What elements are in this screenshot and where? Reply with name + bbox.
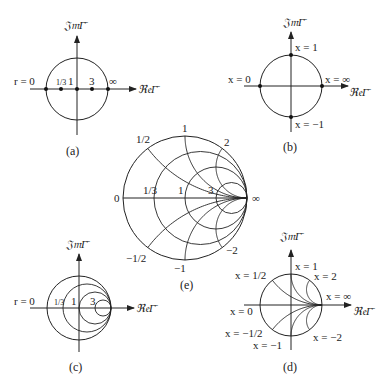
x-half-label: x = 1/2 [235, 269, 266, 281]
caption-a: (a) [66, 144, 79, 158]
x-neg1-label: x = −1 [295, 118, 324, 130]
caption-e: (e) [180, 278, 193, 292]
point-x0 [258, 84, 262, 88]
point-r3 [90, 87, 94, 91]
r-inf-label: ∞ [109, 75, 117, 87]
r1-label: 1 [68, 75, 74, 87]
x-neg-one-label: x = −1 [253, 339, 282, 351]
real-axis-label: ℜ𝔢Γ̄ [136, 302, 158, 314]
r3-label: 3 [90, 295, 96, 307]
r0-label: r = 0 [14, 75, 35, 87]
inf-label: ∞ [252, 192, 260, 204]
point-x-inf [320, 84, 324, 88]
point-r0 [44, 87, 48, 91]
r-third-label: 1/3 [54, 298, 64, 307]
x-neg-half-label: x = −1/2 [225, 327, 262, 339]
x-neg-one-label: −1 [174, 262, 186, 274]
x-pos-two-label: 2 [224, 136, 230, 148]
x-inf-label: x = ∞ [325, 73, 350, 85]
x-neg-half-label: −1/2 [126, 252, 146, 264]
x-pos-half-label: 1/2 [136, 133, 150, 145]
r-third-label: 1/3 [143, 184, 158, 196]
r3-label: 3 [208, 184, 214, 196]
x0-label: x = 0 [228, 73, 251, 85]
r0-label: 0 [114, 192, 120, 204]
real-axis-label: ℜ𝔢Γ̄ [353, 305, 375, 317]
r1-label: 1 [71, 295, 77, 307]
imag-axis-label: 𝔍𝔪Γ̄ [279, 230, 304, 242]
caption-c: (c) [69, 360, 82, 374]
x-pos-one-label: 1 [182, 122, 188, 134]
caption-d: (d) [283, 360, 297, 374]
point-x1 [289, 53, 293, 57]
x-neg-two-label: −2 [226, 244, 238, 256]
smith-chart-figure: r = 0 1/3 1 3 ∞ 𝔍𝔪Γ̄ ℜ𝔢Γ̄ (a) x = 1 x = … [0, 0, 391, 388]
x1-label: x = 1 [295, 41, 318, 53]
point-x-neg1 [289, 115, 293, 119]
x-two-label: x = 2 [314, 270, 337, 282]
imag-axis-label: 𝔍𝔪Γ̄ [282, 16, 307, 28]
x-zero-label: x = 0 [230, 305, 253, 317]
panel-e: 0 1/3 1 3 ∞ 1/2 1 2 −1/2 −1 −2 (e) [114, 122, 260, 292]
x-neg-two-label: x = −2 [313, 331, 342, 343]
r0-label: r = 0 [14, 295, 35, 307]
real-axis-label: ℜ𝔢Γ̄ [138, 83, 160, 95]
x-inf-label: x = ∞ [326, 290, 351, 302]
point-r1 [75, 87, 79, 91]
panel-b: x = 1 x = 0 x = ∞ x = −1 𝔍𝔪Γ̄ ℜ𝔢Γ̄ (b) [228, 16, 371, 154]
caption-b: (b) [283, 140, 297, 154]
point-r-inf [106, 87, 110, 91]
r1-label: 1 [178, 184, 184, 196]
panel-d: x = 1/2 x = 1 x = 2 x = ∞ x = 0 x = −1/2… [225, 230, 375, 374]
imag-axis-label: 𝔍𝔪Γ̄ [63, 19, 88, 31]
real-axis-label: ℜ𝔢Γ̄ [349, 86, 371, 98]
r-third-label: 1/3 [56, 78, 66, 87]
imag-axis-label: 𝔍𝔪Γ̄ [65, 238, 90, 250]
r3-label: 3 [89, 75, 95, 87]
point-r-third [59, 87, 63, 91]
